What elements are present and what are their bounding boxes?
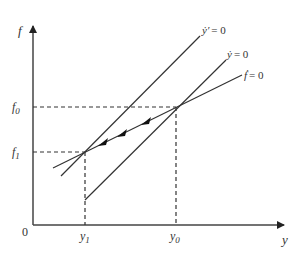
curves bbox=[53, 36, 242, 200]
f-dot-zero-label: ḟ= 0 bbox=[244, 69, 264, 81]
origin-label: 0 bbox=[22, 225, 28, 239]
f1-label: f1 bbox=[12, 145, 20, 161]
arrow-icon bbox=[98, 138, 108, 146]
x-axis-label: y bbox=[280, 232, 288, 247]
phase-diagram: f y 0 f0 f1 y1 y0 ẏ′= 0 ẏ= 0 ḟ= 0 bbox=[0, 0, 304, 255]
curve-labels: ẏ′= 0 ẏ= 0 ḟ= 0 bbox=[201, 24, 264, 81]
guide-lines bbox=[33, 107, 176, 225]
arrow-icon bbox=[117, 129, 127, 137]
y-dot-zero-label: ẏ= 0 bbox=[226, 48, 249, 60]
y0-label: y0 bbox=[169, 229, 180, 245]
f0-label: f0 bbox=[12, 100, 20, 116]
y-axis-label: f bbox=[18, 23, 24, 38]
y-prime-dot-zero-label: ẏ′= 0 bbox=[201, 24, 226, 36]
y1-label: y1 bbox=[79, 229, 90, 245]
arrow-icon bbox=[141, 117, 151, 125]
tick-labels: f0 f1 y1 y0 bbox=[12, 100, 180, 245]
